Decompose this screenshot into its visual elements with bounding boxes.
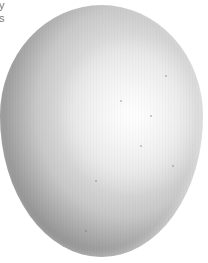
clipped-text-fragment: y (0, 0, 5, 11)
image-canvas: y s (0, 0, 208, 263)
shell-speck (172, 165, 174, 167)
shell-speck (120, 100, 122, 102)
shell-speck (150, 115, 152, 117)
shell-texture (0, 5, 203, 257)
shell-speck (165, 75, 167, 77)
shell-speck (140, 145, 142, 147)
egg-photo (0, 5, 203, 257)
shell-speck (85, 230, 87, 232)
shell-speck (95, 180, 97, 182)
clipped-text-fragment: s (0, 13, 5, 24)
